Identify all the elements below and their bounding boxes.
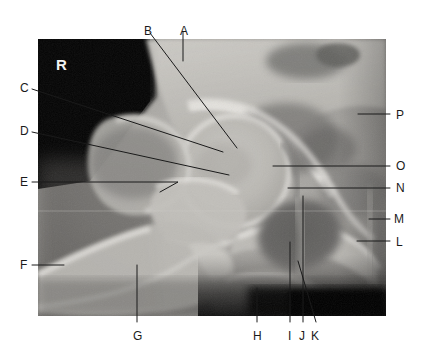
figure-root: R ABCDEFGHIJKLMNOP <box>0 0 421 361</box>
label-p: P <box>396 109 404 121</box>
top-margin <box>0 0 421 12</box>
label-h: H <box>253 330 262 342</box>
label-d: D <box>20 125 29 137</box>
label-n: N <box>396 182 405 194</box>
label-o: O <box>396 160 405 172</box>
label-c: C <box>20 82 29 94</box>
label-j: J <box>299 330 305 342</box>
label-i: I <box>288 330 291 342</box>
label-l: L <box>396 236 403 248</box>
side-marker-right: R <box>56 56 67 73</box>
label-b: B <box>144 25 152 37</box>
label-e: E <box>20 176 28 188</box>
label-m: M <box>394 213 404 225</box>
xray-canvas <box>38 39 386 316</box>
label-a: A <box>180 25 188 37</box>
label-k: K <box>311 330 319 342</box>
label-g: G <box>133 330 142 342</box>
radiograph-image <box>38 39 386 316</box>
label-f: F <box>20 259 27 271</box>
